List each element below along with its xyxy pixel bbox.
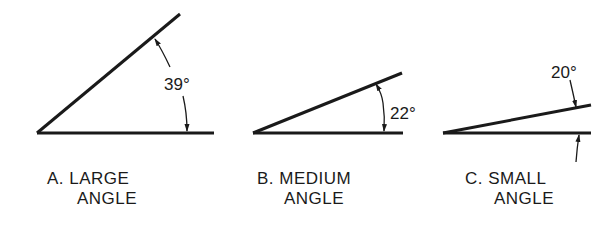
angled-line [37, 14, 180, 133]
angle-label-b: 22° [390, 104, 416, 124]
dimension-arrow-upper [376, 84, 383, 103]
caption-a-line2: ANGLE [77, 189, 137, 209]
caption-a-line1: A. LARGE [47, 169, 129, 189]
panel-a-large-angle [37, 14, 214, 133]
dimension-arrow-lower [383, 103, 384, 131]
dimension-arrow-lower [183, 96, 187, 131]
angle-label-c: 20° [551, 63, 577, 83]
caption-b-line2: ANGLE [284, 189, 344, 209]
angle-label-a: 39° [164, 75, 190, 95]
dimension-arrow-upper [570, 80, 576, 107]
panel-c-small-angle [443, 80, 591, 162]
caption-c-line1: C. SMALL [465, 169, 546, 189]
dimension-arrow-upper [155, 39, 170, 67]
caption-b-line1: B. MEDIUM [257, 169, 351, 189]
angled-line [443, 105, 591, 133]
dimension-arrow-lower [576, 135, 579, 162]
panel-b-medium-angle [253, 73, 403, 133]
caption-c-line2: ANGLE [494, 189, 554, 209]
angled-line [253, 73, 402, 133]
